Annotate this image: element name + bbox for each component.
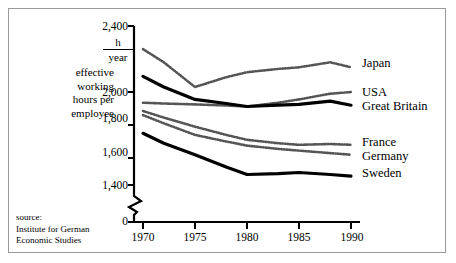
series-line-japan bbox=[143, 49, 351, 87]
axes-group bbox=[128, 26, 360, 229]
series-lines-group bbox=[143, 49, 351, 176]
chart-stage: effective working hours per employee h y… bbox=[0, 0, 456, 263]
series-line-usa bbox=[143, 92, 351, 107]
plot-area bbox=[0, 0, 456, 263]
series-line-great-britain bbox=[143, 76, 351, 106]
